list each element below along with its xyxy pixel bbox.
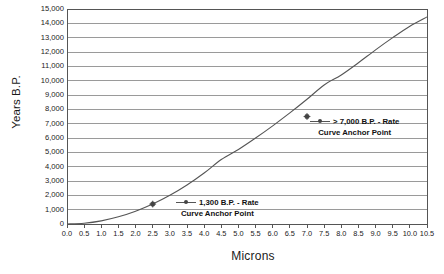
x-axis-tick-label: 2.5 xyxy=(148,229,158,238)
x-axis-tick-label: 1.0 xyxy=(96,229,106,238)
x-axis-tick-label: 10.0 xyxy=(403,229,417,238)
x-axis-tick-label: 0.0 xyxy=(62,229,72,238)
x-axis-tick-label: 4.0 xyxy=(199,229,209,238)
x-axis-tick-label: 4.5 xyxy=(216,229,226,238)
legend-key-icon xyxy=(310,118,330,125)
x-axis-tick-label: 5.0 xyxy=(233,229,243,238)
x-axis-tick-label: 1.5 xyxy=(113,229,123,238)
annotation-upper-line1: > 7,000 B.P. - Rate xyxy=(333,117,399,126)
x-axis-tick-label: 8.5 xyxy=(353,229,363,238)
annotation-lower-line1: 1,300 B.P. - Rate xyxy=(199,198,259,207)
chart-container: Years B.P. 01,0002,0003,0004,0005,0006,0… xyxy=(0,0,444,274)
x-axis-tick-label: 6.5 xyxy=(285,229,295,238)
x-axis-tick-label: 3.5 xyxy=(182,229,192,238)
x-axis-tick-label: 9.5 xyxy=(388,229,398,238)
annotation-upper-anchor: > 7,000 B.P. - Rate Curve Anchor Point xyxy=(310,117,399,138)
x-axis-tick-label: 10.5 xyxy=(420,229,434,238)
x-axis-tick-label: 7.5 xyxy=(319,229,329,238)
x-axis-tick-label: 0.5 xyxy=(79,229,89,238)
legend-key-icon xyxy=(176,199,196,206)
x-axis-title: Microns xyxy=(88,249,418,263)
x-axis-tick-marks xyxy=(67,224,427,228)
annotation-upper-line2: Curve Anchor Point xyxy=(310,128,399,139)
x-axis-tick-labels: 0.00.51.01.52.02.53.03.54.04.55.05.56.06… xyxy=(67,229,427,241)
x-axis-tick-label: 7.0 xyxy=(302,229,312,238)
gridlines xyxy=(67,9,427,210)
x-axis-tick-label: 8.0 xyxy=(336,229,346,238)
x-axis-tick-label: 2.0 xyxy=(130,229,140,238)
annotation-lower-line2: Curve Anchor Point xyxy=(176,209,259,220)
annotation-lower-anchor: 1,300 B.P. - Rate Curve Anchor Point xyxy=(176,198,259,219)
x-axis-tick-label: 3.0 xyxy=(165,229,175,238)
x-axis-tick-label: 5.5 xyxy=(250,229,260,238)
x-axis-tick-label: 9.0 xyxy=(370,229,380,238)
x-axis-tick-label: 6.0 xyxy=(268,229,278,238)
